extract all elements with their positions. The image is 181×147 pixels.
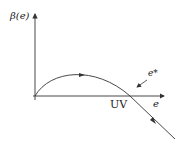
e-star-label: e* [148,68,158,78]
x-axis-label: e [153,98,159,109]
uv-fixed-point-label: UV [110,98,127,111]
annotation-arrow [137,80,147,87]
flow-arrow-icon [79,73,85,77]
y-axis-label: β(e) [10,10,30,21]
